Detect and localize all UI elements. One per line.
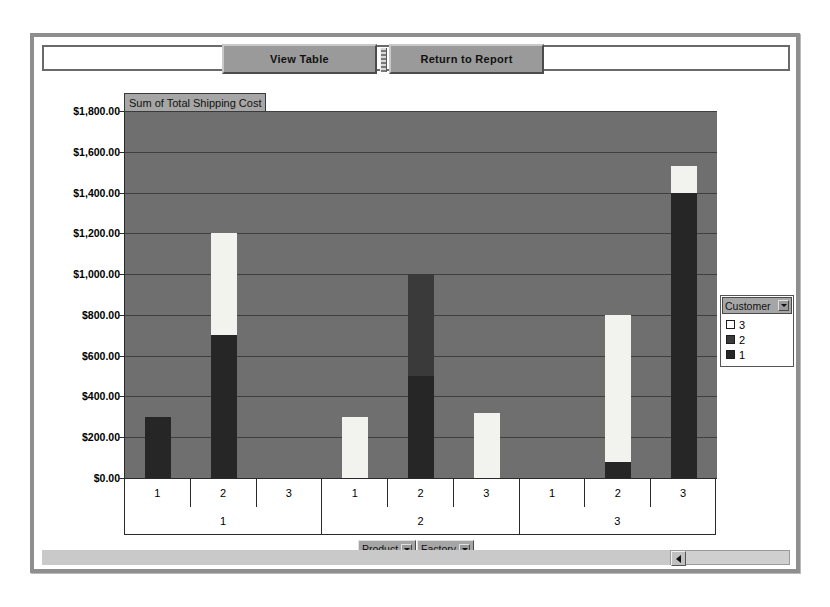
- bar[interactable]: [211, 233, 237, 478]
- x-axis-outer-labels: 123: [124, 507, 716, 535]
- x-axis-outer-label: 1: [124, 507, 321, 535]
- x-axis-inner-label: 1: [519, 479, 585, 507]
- toolbar: View Table Return to Report: [42, 45, 790, 71]
- scroll-left-arrow-icon[interactable]: [671, 551, 686, 566]
- chart-title[interactable]: Sum of Total Shipping Cost: [124, 93, 266, 112]
- legend-item[interactable]: 2: [726, 332, 790, 347]
- toolbar-grip[interactable]: [380, 48, 387, 72]
- y-axis-tick-mark: [119, 274, 125, 275]
- bar[interactable]: [408, 274, 434, 478]
- x-axis-inner-label: 3: [453, 479, 519, 507]
- legend-item[interactable]: 1: [726, 347, 790, 362]
- x-axis: 123123123 123: [124, 479, 716, 535]
- legend-color-swatch: [726, 350, 735, 359]
- legend-items: 321: [722, 314, 792, 365]
- legend-item[interactable]: 3: [726, 317, 790, 332]
- bar-segment[interactable]: [342, 417, 368, 478]
- bar[interactable]: [342, 417, 368, 478]
- chevron-down-icon[interactable]: [778, 300, 789, 311]
- view-table-button[interactable]: View Table: [222, 44, 377, 74]
- y-axis-tick-mark: [119, 315, 125, 316]
- gridline: [125, 152, 717, 153]
- bar[interactable]: [145, 417, 171, 478]
- plot-area: [124, 111, 717, 479]
- bar-segment[interactable]: [605, 315, 631, 462]
- legend: Customer 321: [720, 295, 794, 367]
- x-axis-inner-label: 3: [650, 479, 716, 507]
- y-axis-tick-label: $1,000.00: [44, 268, 120, 280]
- y-axis-tick-label: $200.00: [44, 431, 120, 443]
- x-axis-inner-label: 2: [190, 479, 256, 507]
- y-axis-tick-mark: [119, 356, 125, 357]
- legend-item-label: 1: [739, 349, 745, 361]
- bar-segment[interactable]: [671, 193, 697, 478]
- bar-segment[interactable]: [474, 413, 500, 478]
- legend-field-button[interactable]: Customer: [722, 297, 792, 314]
- scrollbar-track[interactable]: [670, 550, 790, 565]
- y-axis-tick-label: $1,400.00: [44, 187, 120, 199]
- bar-segment[interactable]: [145, 417, 171, 478]
- y-axis-tick-label: $1,600.00: [44, 146, 120, 158]
- chart-area: Sum of Total Shipping Cost $1,800.00$1,6…: [42, 77, 790, 562]
- y-axis-tick-label: $600.00: [44, 350, 120, 362]
- bar[interactable]: [605, 315, 631, 478]
- x-axis-inner-label: 1: [124, 479, 190, 507]
- y-axis-tick-mark: [119, 437, 125, 438]
- y-axis-tick-mark: [119, 233, 125, 234]
- screenshot-root: View Table Return to Report Sum of Total…: [0, 0, 830, 607]
- y-axis-tick-label: $400.00: [44, 390, 120, 402]
- bar-segment[interactable]: [211, 233, 237, 335]
- bar-segment[interactable]: [605, 462, 631, 478]
- x-axis-outer-label: 3: [519, 507, 716, 535]
- y-axis-tick-label: $1,200.00: [44, 227, 120, 239]
- y-axis-tick-mark: [119, 193, 125, 194]
- x-axis-inner-label: 2: [584, 479, 650, 507]
- y-axis-tick-label: $1,800.00: [44, 105, 120, 117]
- bar-segment[interactable]: [671, 166, 697, 193]
- x-axis-inner-label: 2: [387, 479, 453, 507]
- horizontal-scrollbar[interactable]: [42, 550, 790, 565]
- legend-title: Customer: [725, 300, 778, 312]
- gridline: [125, 193, 717, 194]
- x-axis-outer-label: 2: [321, 507, 518, 535]
- return-to-report-button[interactable]: Return to Report: [389, 44, 544, 74]
- bar-segment[interactable]: [408, 274, 434, 376]
- y-axis-tick-mark: [119, 396, 125, 397]
- bar-segment[interactable]: [211, 335, 237, 478]
- bar[interactable]: [671, 166, 697, 478]
- legend-item-label: 3: [739, 319, 745, 331]
- bar[interactable]: [474, 413, 500, 478]
- legend-item-label: 2: [739, 334, 745, 346]
- x-axis-inner-label: 1: [321, 479, 387, 507]
- legend-color-swatch: [726, 335, 735, 344]
- y-axis-tick-mark: [119, 152, 125, 153]
- bar-segment[interactable]: [408, 376, 434, 478]
- chart-window: View Table Return to Report Sum of Total…: [30, 33, 800, 573]
- legend-color-swatch: [726, 320, 735, 329]
- x-axis-inner-label: 3: [256, 479, 322, 507]
- x-axis-inner-labels: 123123123: [124, 479, 716, 507]
- y-axis-tick-label: $0.00: [44, 472, 120, 484]
- y-axis-tick-label: $800.00: [44, 309, 120, 321]
